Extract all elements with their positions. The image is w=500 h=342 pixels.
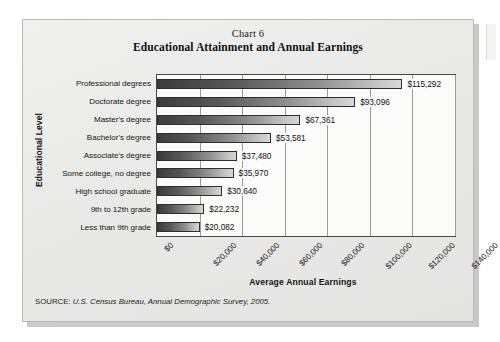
category-label: Bachelor's degree <box>45 128 155 146</box>
bar-value-label: $20,082 <box>204 222 236 232</box>
bar-row[interactable]: $115,292 <box>157 75 455 93</box>
chart-title: Educational Attainment and Annual Earnin… <box>23 41 473 53</box>
x-tick-label: $0 <box>163 241 176 254</box>
bar-value-label: $53,581 <box>275 133 307 143</box>
bar-row[interactable]: $22,232 <box>157 200 455 218</box>
category-label: Professional degrees <box>45 74 155 92</box>
bar[interactable] <box>157 222 200 232</box>
bar[interactable] <box>157 133 271 143</box>
plot-area: $115,292$93,096$67,361$53,581$37,480$35,… <box>156 74 456 237</box>
source-text: U.S. Census Bureau, Annual Demographic S… <box>73 297 271 306</box>
category-label: Master's degree <box>45 110 155 128</box>
bar-value-label: $67,361 <box>304 115 336 125</box>
bar-series: $115,292$93,096$67,361$53,581$37,480$35,… <box>157 75 455 236</box>
bar-value-label: $37,480 <box>241 151 273 161</box>
x-tick-label: $100,000 <box>384 241 414 271</box>
bar-value-label: $30,640 <box>226 186 258 196</box>
bar[interactable] <box>157 186 222 196</box>
chart-number-label: Chart 6 <box>23 28 473 39</box>
bar[interactable] <box>157 115 300 125</box>
y-axis-title-text: Educational Level <box>34 113 44 187</box>
bar-value-label: $93,096 <box>359 97 391 107</box>
x-tick-label: $60,000 <box>297 241 324 268</box>
category-label: Less than 9th grade <box>45 219 155 237</box>
bar-value-label: $22,232 <box>208 204 240 214</box>
page-edge-artifact <box>486 24 496 60</box>
chart-card: Chart 6 Educational Attainment and Annua… <box>22 19 474 322</box>
bar-row[interactable]: $30,640 <box>157 182 455 200</box>
x-tick-label: $40,000 <box>254 241 281 268</box>
category-label: Doctorate degree <box>45 92 155 110</box>
bar-row[interactable]: $35,970 <box>157 164 455 182</box>
bar-row[interactable]: $67,361 <box>157 111 455 129</box>
x-tick-label: $20,000 <box>211 241 238 268</box>
y-axis-title: Educational Level <box>32 90 46 210</box>
gridline <box>455 75 456 236</box>
x-tick-label: $120,000 <box>427 241 457 271</box>
bar-row[interactable]: $53,581 <box>157 129 455 147</box>
source-label: SOURCE: <box>35 297 71 306</box>
x-axis-tick-labels: $0$20,000$40,000$60,000$80,000$100,000$1… <box>156 237 456 279</box>
category-label: 9th to 12th grade <box>45 201 155 219</box>
x-axis-title: Average Annual Earnings <box>153 277 453 287</box>
bar-value-label: $35,970 <box>238 168 270 178</box>
bar[interactable] <box>157 168 234 178</box>
category-label: Associate's degree <box>45 146 155 164</box>
bar-row[interactable]: $93,096 <box>157 93 455 111</box>
bar-row[interactable]: $37,480 <box>157 147 455 165</box>
bar-value-label: $115,292 <box>406 79 442 89</box>
bar[interactable] <box>157 97 355 107</box>
bar[interactable] <box>157 151 237 161</box>
source-note: SOURCE: U.S. Census Bureau, Annual Demog… <box>35 297 270 306</box>
category-axis-labels: Professional degreesDoctorate degreeMast… <box>45 74 155 237</box>
x-tick-label: $80,000 <box>340 241 367 268</box>
bar[interactable] <box>157 204 204 214</box>
category-label: Some college, no degree <box>45 165 155 183</box>
category-label: High school graduate <box>45 183 155 201</box>
bar[interactable] <box>157 79 402 89</box>
bar-row[interactable]: $20,082 <box>157 218 455 236</box>
